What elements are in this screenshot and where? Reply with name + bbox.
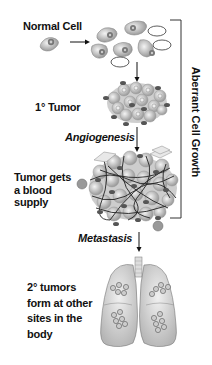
- lungs-icon: [101, 257, 177, 347]
- normal-cell-label: Normal Cell: [23, 20, 82, 33]
- aberrant-growth-label-wrap: Aberrant Cell Growth: [188, 32, 204, 212]
- dividing-cells-icon: [91, 21, 171, 67]
- arrow-down-icon: [137, 232, 142, 252]
- arrow-down-icon: [135, 127, 140, 152]
- blood-supply-label: Tumor gets a blood supply: [14, 171, 71, 209]
- secondary-tumors-label: 2° tumors form at other sites in the bod…: [27, 280, 92, 342]
- metastasis-label: Metastasis: [78, 232, 132, 245]
- aberrant-growth-label: Aberrant Cell Growth: [190, 67, 202, 178]
- primary-tumor-label: 1° Tumor: [35, 101, 80, 114]
- primary-tumor-icon: [103, 81, 170, 126]
- normal-cell-icon: [40, 38, 58, 51]
- vascularized-tumor-icon: [77, 146, 178, 231]
- angiogenesis-label: Angiogenesis: [65, 131, 135, 144]
- arrow-right-icon: [70, 40, 90, 45]
- arrow-down-icon: [135, 62, 140, 82]
